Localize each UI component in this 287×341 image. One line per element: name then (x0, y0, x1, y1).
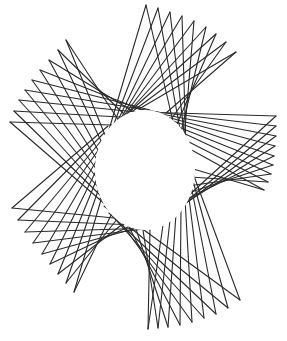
center-hole (95, 110, 195, 230)
string-art-canvas (0, 0, 287, 341)
